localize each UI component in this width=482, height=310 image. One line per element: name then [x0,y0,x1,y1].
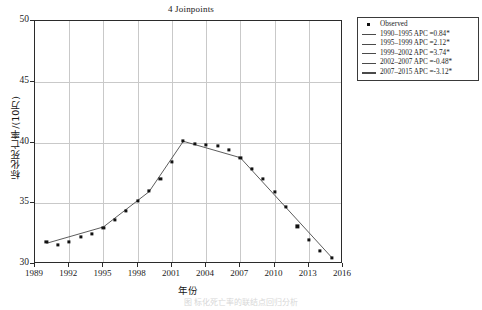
y-tick-label: 35 [12,196,29,206]
legend: Observed1990–1995 APC =0.84*1995–1999 AP… [357,17,479,81]
data-point [284,205,287,208]
plot-area [34,20,342,263]
x-tick-mark [137,263,138,267]
data-point [102,226,105,229]
legend-item: Observed [361,20,476,30]
data-point [296,225,299,228]
y-tick-mark [30,202,34,203]
y-tick-mark [30,20,34,21]
y-axis-label: 标化死亡率/(10万) [9,96,23,179]
data-point [182,140,185,143]
data-point [216,145,219,148]
x-tick-mark [342,263,343,267]
data-point [262,177,265,180]
y-tick-label: 30 [12,257,29,267]
legend-item-label: 1995–1999 APC =2.12* [380,39,450,49]
legend-swatch-glyph [362,34,376,35]
x-tick-label: 2004 [190,268,220,278]
data-point [250,168,253,171]
data-point [330,256,333,259]
trend-segment [183,141,240,157]
y-tick-mark [30,142,34,143]
x-tick-mark [68,263,69,267]
x-tick-label: 1992 [53,268,83,278]
trend-segment [46,227,103,243]
trend-segment [149,141,183,191]
x-tick-label: 2016 [327,268,357,278]
data-point [68,241,71,244]
data-point [205,143,208,146]
x-tick-label: 1989 [19,268,49,278]
data-point [90,232,93,235]
data-point [125,209,128,212]
legend-swatch-glyph [362,44,376,45]
legend-swatch-glyph [367,23,370,26]
x-tick-label: 1995 [87,268,117,278]
chart-page: 4 Joinpoints 3035404550 1989199219951998… [0,0,482,310]
x-axis-label: 年份 [34,283,342,297]
data-point [147,189,150,192]
x-tick-mark [205,263,206,267]
legend-item-label: 1990–1995 APC =0.84* [380,30,450,40]
data-point [56,243,59,246]
data-point [273,191,276,194]
x-tick-mark [308,263,309,267]
data-point [45,241,48,244]
x-tick-label: 2007 [224,268,254,278]
x-tick-label: 2013 [293,268,323,278]
data-point [170,160,173,163]
data-point [159,177,162,180]
legend-marker-line-icon [361,68,377,77]
legend-marker-line-icon [361,59,377,68]
legend-item: 2002–2007 APC =-0.48* [361,58,476,68]
legend-item: 1995–1999 APC =2.12* [361,39,476,49]
chart-title: 4 Joinpoints [34,4,348,14]
x-tick-label: 2010 [259,268,289,278]
data-point [307,238,310,241]
data-point [193,142,196,145]
x-tick-mark [239,263,240,267]
legend-item-label: 2007–2015 APC =-3.12* [380,68,452,78]
figure-caption: 图 标化死亡率的联结点回归分析 [0,296,482,310]
legend-swatch-glyph [362,63,376,64]
data-point [136,199,139,202]
x-tick-mark [274,263,275,267]
legend-marker-line-icon [361,49,377,58]
legend-item: 2007–2015 APC =-3.12* [361,68,476,78]
y-tick-label: 50 [12,14,29,24]
data-point [113,219,116,222]
x-tick-mark [102,263,103,267]
data-point [79,236,82,239]
legend-item: 1990–1995 APC =0.84* [361,30,476,40]
data-point [239,157,242,160]
legend-swatch-glyph [362,53,376,54]
legend-swatch-glyph [362,72,376,73]
x-tick-label: 2001 [156,268,186,278]
legend-marker-line-icon [361,39,377,48]
plot-inner [35,21,341,262]
x-tick-mark [34,263,35,267]
legend-item: 1999–2002 APC =3.74* [361,49,476,59]
y-tick-mark [30,81,34,82]
legend-item-label: 1999–2002 APC =3.74* [380,49,450,59]
y-tick-label: 45 [12,75,29,85]
legend-marker-square-icon [361,20,377,29]
legend-item-label: Observed [380,20,408,30]
data-point [227,148,230,151]
data-point [319,249,322,252]
x-tick-mark [171,263,172,267]
x-tick-label: 1998 [122,268,152,278]
legend-marker-line-icon [361,30,377,39]
legend-item-label: 2002–2007 APC =-0.48* [380,58,452,68]
